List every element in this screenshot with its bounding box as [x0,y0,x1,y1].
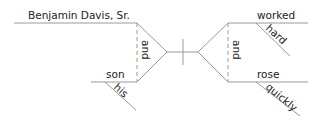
modifier-quickly: quickly [264,80,300,113]
modifier-his: his [112,81,131,100]
subject-conjunction: and [140,40,152,60]
predicate-fork-bottom [198,52,228,82]
subject-1: Benjamin Davis, Sr. [28,9,130,21]
subject-2: son [106,68,125,80]
predicate-2: rose [257,68,279,80]
predicate-fork-top [198,23,228,52]
predicate-conjunction: and [231,40,243,60]
predicate-1: worked [257,9,295,21]
sentence-diagram: Benjamin Davis, Sr. son his and and work… [0,0,321,123]
